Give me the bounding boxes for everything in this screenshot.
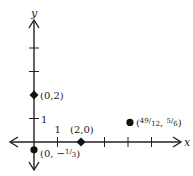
- coordinate-plane: 11 (0,2)(2,0)(0, −1/3)(49/12, 5/6) x y: [0, 0, 193, 176]
- x-axis-label: x: [184, 136, 191, 149]
- y-axis-label: y: [30, 7, 38, 20]
- point-0-neg-third-label: (0, −1/3): [40, 148, 80, 159]
- points: (0,2)(2,0)(0, −1/3)(49/12, 5/6): [30, 90, 182, 159]
- y-tick-label: 1: [41, 114, 47, 125]
- point-0-neg-third-marker: [30, 146, 37, 153]
- point-0-2-label: (0,2): [40, 90, 64, 101]
- x-tick-label: 1: [55, 124, 61, 135]
- point-49-12-5-6-marker: [126, 119, 133, 126]
- point-2-0-marker: [77, 138, 86, 147]
- point-2-0-label: (2,0): [70, 124, 94, 135]
- point-49-12-5-6-label: (49/12, 5/6): [136, 117, 182, 128]
- point-0-2-marker: [30, 91, 39, 100]
